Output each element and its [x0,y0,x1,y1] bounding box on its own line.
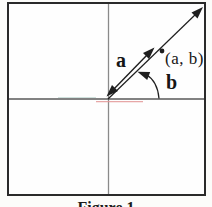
figure-caption: Figure 1 [0,199,212,207]
figure-canvas [0,0,212,207]
radius-label: a [116,50,126,70]
point-dot [160,49,165,54]
point-label: (a, b) [165,50,204,67]
angle-arc-arrowhead [138,72,151,80]
angle-label: b [166,72,177,92]
